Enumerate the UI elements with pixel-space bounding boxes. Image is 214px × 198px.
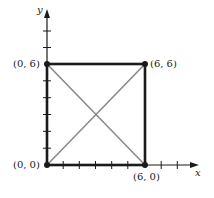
point-6-6 [142, 61, 148, 67]
label-origin: (0, 0) [13, 160, 40, 170]
point-origin [44, 162, 50, 168]
label-0-6: (0, 6) [13, 59, 40, 69]
label-6-6: (6, 6) [150, 59, 177, 69]
y-axis-label: y [37, 5, 43, 15]
label-6-0: (6, 0) [133, 172, 160, 182]
y-axis-arrow-icon [44, 9, 50, 18]
point-0-6 [44, 61, 50, 67]
point-6-0 [142, 162, 148, 168]
x-axis-label: x [195, 168, 201, 178]
